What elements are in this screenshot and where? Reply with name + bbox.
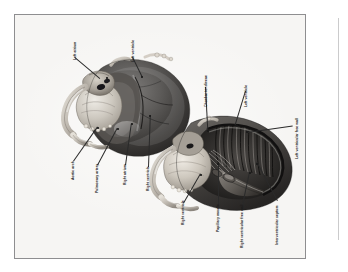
leader-dot-pulmonary-artery <box>117 128 119 130</box>
leader-dot-left-atrium <box>106 77 108 79</box>
page-edge-rule <box>338 18 339 240</box>
label-left-ventricle-interior: Left ventricle <box>245 85 248 107</box>
leader-dot-aortic-arch <box>97 127 99 129</box>
label-aortic-arch: Aortic arch <box>72 161 75 180</box>
figure-frame: Left atrium Left ventricle Aortic arch P… <box>14 14 306 259</box>
leader-dot-right-ventricle-interior <box>200 174 202 176</box>
label-papillary-muscle: Papillary muscle <box>217 204 220 232</box>
scanned-figure-page: Left atrium Left ventricle Aortic arch P… <box>0 0 348 272</box>
leader-dot-right-ventricular-free-wall <box>249 172 251 174</box>
label-left-ventricle-exterior: Left ventricle <box>132 40 135 62</box>
dissected-heart-illustration <box>145 103 305 223</box>
leader-dot-right-atrium <box>131 123 133 125</box>
label-right-ventricle-interior: Right ventricle <box>182 200 185 225</box>
leader-papillary-muscle <box>218 163 219 205</box>
leader-dot-papillary-muscle <box>217 163 219 165</box>
leader-dot-left-ventricle-interior <box>236 125 238 127</box>
label-interventricular-septum: Interventricular septum <box>276 205 279 245</box>
label-chordae-tendineae: Chordae tendineae <box>205 75 208 107</box>
label-right-atrium: Right atrium <box>124 164 127 185</box>
label-pulmonary-artery: Pulmonary artery <box>96 164 99 193</box>
leader-dot-left-ventricular-free-wall <box>246 131 248 133</box>
label-left-atrium: Left atrium <box>74 42 77 60</box>
leader-dot-left-ventricle-exterior <box>141 76 143 78</box>
leader-dot-right-ventricle-exterior <box>149 115 151 117</box>
label-left-ventricular-free-wall: Left ventricular free wall <box>296 118 299 159</box>
label-right-ventricle-exterior: Right ventricle <box>147 166 150 191</box>
leader-dot-chordae-tendineae <box>207 130 209 132</box>
leader-dot-interventricular-septum <box>256 163 258 165</box>
label-right-ventricular-free-wall: Right ventricular free wall <box>241 204 244 248</box>
